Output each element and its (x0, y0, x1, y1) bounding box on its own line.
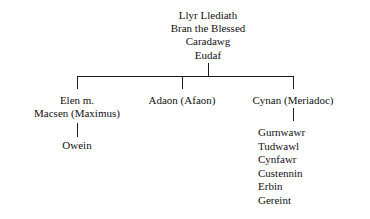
connector-drop-left (77, 76, 78, 89)
connector-cynan-children-stem (293, 108, 294, 121)
child-gurnwawr: Gurnwawr (258, 126, 305, 140)
connector-eudaf-stem (208, 63, 209, 76)
branch-right-children-list: Gurnwawr Tudwawl Cynfawr Custennin Erbin… (258, 126, 305, 208)
branch-center-adaon: Adaon (Afaon) (149, 94, 216, 107)
connector-drop-center (182, 76, 183, 89)
child-custennin: Custennin (258, 167, 305, 181)
connector-sibling-bar (77, 76, 294, 77)
connector-owein-stem (77, 123, 78, 137)
branch-left-line1: Elen m. (34, 94, 120, 107)
connector-drop-right (293, 76, 294, 89)
root-name-eudaf: Eudaf (171, 49, 246, 62)
branch-left-child-owein: Owein (62, 139, 91, 152)
child-cynfawr: Cynfawr (258, 153, 305, 167)
root-name-caradawg: Caradawg (171, 35, 246, 48)
branch-left-line2: Macsen (Maximus) (34, 107, 120, 120)
root-name-bran-the-blessed: Bran the Blessed (171, 22, 246, 35)
root-lineage-block: Llyr Llediath Bran the Blessed Caradawg … (171, 9, 246, 62)
child-erbin: Erbin (258, 180, 305, 194)
child-tudwawl: Tudwawl (258, 140, 305, 154)
child-gereint: Gereint (258, 194, 305, 208)
root-name-llyr-llediath: Llyr Llediath (171, 9, 246, 22)
branch-left-elen-macsen: Elen m. Macsen (Maximus) (34, 94, 120, 120)
branch-right-cynan: Cynan (Meriadoc) (253, 94, 334, 107)
genealogy-diagram: Llyr Llediath Bran the Blessed Caradawg … (0, 0, 370, 219)
